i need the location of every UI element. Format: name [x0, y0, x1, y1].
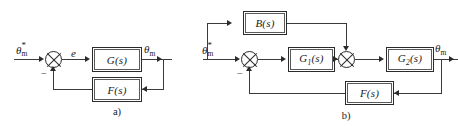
block-forward-a-label: G(s) [107, 54, 127, 66]
output-label-b: θm [435, 43, 446, 57]
block-forward-1-b-label: G1(s) [299, 52, 323, 67]
summer-negative-sign-a: − [41, 69, 47, 79]
arrow-error-a [85, 56, 90, 62]
block-forward-2-b-label: G2(s) [398, 52, 422, 67]
block-feedforward-b-label: B(s) [255, 17, 274, 29]
wire-feedback-down-a [163, 59, 164, 89]
arrow-feedback-summer-b [246, 66, 252, 71]
wire-feedback-bottom-b [249, 93, 345, 94]
block-feedback-a-label: F(s) [107, 84, 126, 96]
arrow-feedback-summer-a [50, 66, 56, 71]
caption-b: b) [321, 110, 371, 121]
caption-a: a) [92, 106, 142, 117]
diagram-panel-a: θ*m − e G(s) θm F(s) [0, 0, 229, 126]
wire-summer-to-g2-b [355, 59, 382, 60]
block-feedback-b: F(s) [345, 81, 394, 105]
wire-output-b [434, 59, 458, 60]
block-forward-a: G(s) [92, 47, 142, 72]
wire-feedforward-out-b [287, 23, 346, 24]
wire-feedback-top-b [394, 93, 442, 94]
output-label-a: θm [144, 44, 155, 58]
summer-negative-sign-b: − [237, 69, 243, 79]
input-label-a: θ*m [16, 45, 21, 56]
block-feedforward-b: B(s) [243, 11, 287, 35]
summing-junction-mid-b [338, 51, 355, 68]
wire-input-a [14, 59, 41, 60]
block-forward-1-b: G1(s) [288, 47, 335, 72]
wire-feedforward-down-b [346, 23, 347, 48]
diagram-panel-b: θ*m B(s) − G1(s) [229, 0, 458, 126]
block-forward-2-b: G2(s) [386, 47, 434, 72]
arrow-feedback-in-b [394, 90, 399, 96]
arrow-feedforward-in-b [227, 20, 232, 26]
arrow-input-a [39, 56, 44, 62]
wire-error-a [62, 59, 87, 60]
arrow-output-a [157, 56, 162, 62]
arrow-input-b [235, 56, 240, 62]
wire-input-b [203, 59, 237, 60]
figure-root: θ*m − e G(s) θm F(s) [0, 0, 458, 126]
block-feedback-a: F(s) [92, 77, 142, 102]
arrow-feedback-in-a [142, 86, 147, 92]
arrow-g2-in-b [379, 56, 384, 62]
error-label-a: e [71, 48, 76, 59]
arrow-g1-in-b [281, 56, 286, 62]
arrow-output-b [449, 56, 454, 62]
wire-feedforward-up-b [207, 23, 208, 60]
wire-feedback-up-b [249, 68, 250, 94]
wire-feedback-down-b [441, 59, 442, 93]
block-feedback-b-label: F(s) [360, 87, 379, 99]
wire-feedback-up-a [53, 68, 54, 90]
wire-feedback-bottom-a [53, 89, 92, 90]
